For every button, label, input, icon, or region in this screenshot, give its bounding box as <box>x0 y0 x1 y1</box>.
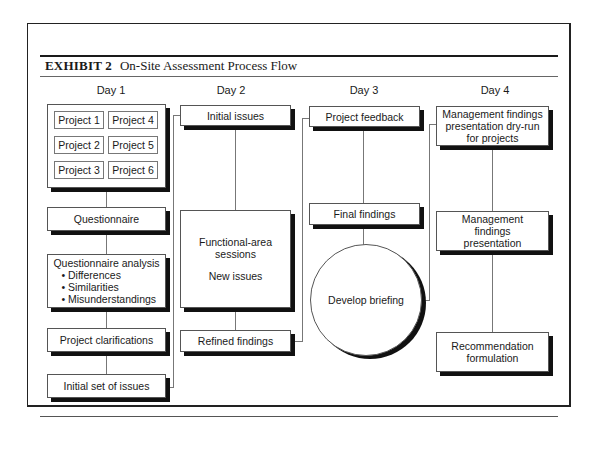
connector-d3-d4-h2 <box>429 124 436 125</box>
project-3: Project 3 <box>54 161 104 179</box>
functional-area-sessions-label: Functional-area sessions <box>196 236 276 260</box>
project-feedback-box: Project feedback <box>309 106 420 127</box>
recommendation-formulation-box: Recommendation formulation <box>436 332 549 372</box>
day-2-label: Day 2 <box>181 84 281 96</box>
bullet-misunderstandings: • Misunderstandings <box>53 293 159 305</box>
final-findings-box: Final findings <box>309 203 420 225</box>
project-1: Project 1 <box>54 111 104 129</box>
questionnaire-analysis-title: Questionnaire analysis <box>53 257 159 269</box>
initial-issues-box: Initial issues <box>180 105 291 126</box>
questionnaire-box: Questionnaire <box>47 207 166 231</box>
questionnaire-analysis-box: Questionnaire analysis • Differences • S… <box>47 254 166 308</box>
project-4: Project 4 <box>108 111 158 129</box>
day-3-spine <box>363 127 364 247</box>
bullet-differences: • Differences <box>53 269 159 281</box>
management-presentation-box: Management findings presentation <box>436 211 549 251</box>
project-5: Project 5 <box>108 136 158 154</box>
exhibit-title-text: On-Site Assessment Process Flow <box>120 58 297 73</box>
project-clarifications-box: Project clarifications <box>47 328 166 352</box>
exhibit-title: EXHIBIT 2On-Site Assessment Process Flow <box>45 58 297 74</box>
title-rule-top <box>40 55 558 57</box>
connector-d2-d3-v <box>302 118 303 342</box>
bottom-rule <box>40 416 558 417</box>
connector-d1-d2-v <box>173 115 174 388</box>
develop-briefing-circle: Develop briefing <box>310 244 422 356</box>
project-6: Project 6 <box>108 161 158 179</box>
connector-d3-d4-v <box>429 124 430 301</box>
exhibit-label: EXHIBIT 2 <box>45 58 112 73</box>
initial-set-of-issues-box: Initial set of issues <box>47 374 166 398</box>
new-issues-label: New issues <box>209 270 263 282</box>
title-rule-bottom <box>40 76 558 77</box>
dry-run-box: Management findings presentation dry-run… <box>436 106 549 146</box>
refined-findings-box: Refined findings <box>180 330 291 352</box>
connector-d2-d3-h1 <box>294 341 302 342</box>
project-2: Project 2 <box>54 136 104 154</box>
bullet-similarities: • Similarities <box>53 281 159 293</box>
day-3-label: Day 3 <box>314 84 414 96</box>
functional-area-box: Functional-area sessions New issues <box>180 210 291 308</box>
day-4-label: Day 4 <box>445 84 545 96</box>
day-1-label: Day 1 <box>61 84 161 96</box>
connector-d1-d2-h2 <box>173 115 180 116</box>
